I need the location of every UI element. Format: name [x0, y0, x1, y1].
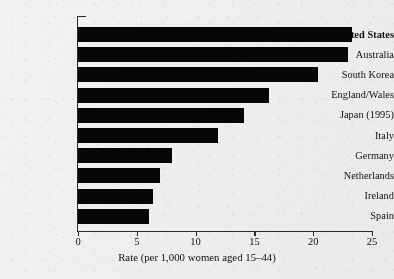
bar-chart: United StatesAustraliaSouth KoreaEngland…	[0, 0, 394, 279]
x-tick-label: 20	[308, 236, 319, 247]
category-label: United States	[320, 29, 394, 40]
bar	[78, 128, 218, 143]
bar	[78, 108, 244, 123]
bar	[78, 209, 149, 224]
bar-series	[0, 0, 394, 279]
category-label: England/Wales	[320, 89, 394, 100]
x-tick-label: 5	[134, 236, 139, 247]
x-tick	[78, 232, 79, 236]
x-tick	[372, 232, 373, 236]
category-label: South Korea	[320, 69, 394, 80]
category-label: Ireland	[320, 190, 394, 201]
category-label: Spain	[320, 210, 394, 221]
bar	[78, 148, 172, 163]
bar	[78, 47, 348, 62]
bar	[78, 27, 352, 42]
x-tick-label: 10	[190, 236, 201, 247]
x-tick	[313, 232, 314, 236]
x-axis-ticks: 0510152025	[0, 0, 394, 279]
bar	[78, 88, 269, 103]
x-tick	[254, 232, 255, 236]
category-label: Australia	[320, 49, 394, 60]
x-tick-label: 0	[75, 236, 80, 247]
category-label: Germany	[320, 150, 394, 161]
x-axis-line	[77, 231, 373, 232]
bar	[78, 168, 160, 183]
x-tick	[196, 232, 197, 236]
category-labels: United StatesAustraliaSouth KoreaEngland…	[0, 0, 394, 279]
category-label: Japan (1995)	[320, 109, 394, 120]
category-label: Italy	[320, 130, 394, 141]
bar	[78, 189, 153, 204]
axis-top-stub	[77, 16, 86, 17]
bar	[78, 67, 318, 82]
x-tick-label: 15	[249, 236, 260, 247]
x-axis-title: Rate (per 1,000 women aged 15–44)	[0, 251, 394, 263]
y-axis-line	[77, 16, 78, 232]
x-tick-label: 25	[367, 236, 378, 247]
x-tick	[137, 232, 138, 236]
category-label: Netherlands	[320, 170, 394, 181]
